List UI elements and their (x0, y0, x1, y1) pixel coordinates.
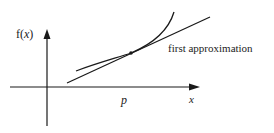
y-axis (44, 29, 51, 126)
point-label: p (120, 93, 127, 107)
x-axis-arrow-icon (189, 84, 200, 91)
diagram-canvas: f(x) first approximation p x (0, 0, 274, 133)
tangent-label: first approximation (168, 42, 253, 54)
tangent-point (129, 51, 133, 55)
y-axis-arrow-icon (44, 29, 51, 39)
y-axis-label: f(x) (16, 27, 33, 41)
x-axis-label: x (188, 93, 194, 105)
x-axis (10, 84, 200, 91)
function-curve (76, 12, 174, 71)
